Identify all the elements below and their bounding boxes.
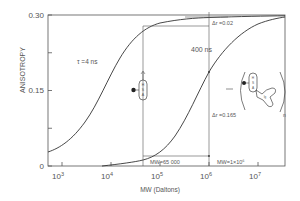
marker-1e6 [208,155,210,157]
curve-400ns [102,17,285,166]
x-tick-label-1e7: 107 [249,171,261,181]
reference-lines [143,12,228,166]
curve-4ns [48,16,285,152]
subscript-n: n [283,112,286,118]
annotation-400ns: 400 ns [191,46,213,53]
x-tick-label-1e3: 103 [52,171,64,181]
x-tick-labels: 103 104 105 106 107 [52,171,261,181]
x-tick-label-1e6: 106 [200,171,212,181]
annotation-mw-65000: MW=65 000 [150,159,180,165]
annotation-tau-4ns: τ =4 ns [77,58,98,65]
x-tick-label-1e5: 105 [151,171,163,181]
svg-text:Ig: Ig [264,95,267,99]
x-axis-title: MW (Daltons) [140,186,180,194]
y-tick-label-0: 0 [40,162,45,171]
annotation-mw-1e6: MW=1×10⁶ [217,159,245,165]
x-tick-label-1e4: 104 [101,171,113,181]
anisotropy-chart: 0.30 0.15 0 ANISOTROPY 103 104 105 106 1… [0,0,300,201]
marker-400ns [208,71,210,73]
y-axis-title: ANISOTROPY [19,47,26,93]
hsa-diagram: H S A [131,71,147,100]
svg-text:H: H [252,76,255,80]
y-tick-label-0.15: 0.15 [28,86,44,95]
svg-text:A: A [252,86,255,90]
svg-text:H: H [142,83,145,87]
y-ticks [48,15,52,166]
svg-text:S: S [142,88,145,92]
annotation-delta-r-0.165: Δr =0.165 [212,112,236,118]
y-tick-label-0.30: 0.30 [28,11,44,20]
svg-text:S: S [252,81,254,85]
annotation-delta-r-0.02: Δr =0.02 [212,20,233,26]
svg-text:A: A [142,93,145,97]
